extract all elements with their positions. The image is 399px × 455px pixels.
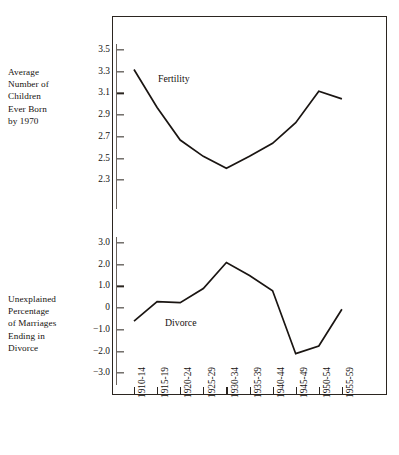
- divorce-line: [134, 263, 342, 354]
- fertility-series-label: Fertility: [158, 74, 190, 84]
- divorce-series-label: Divorce: [165, 318, 197, 328]
- chart-figure: Average Number of Children Ever Born by …: [0, 0, 399, 455]
- data-curves: [0, 0, 399, 455]
- fertility-line: [134, 70, 342, 169]
